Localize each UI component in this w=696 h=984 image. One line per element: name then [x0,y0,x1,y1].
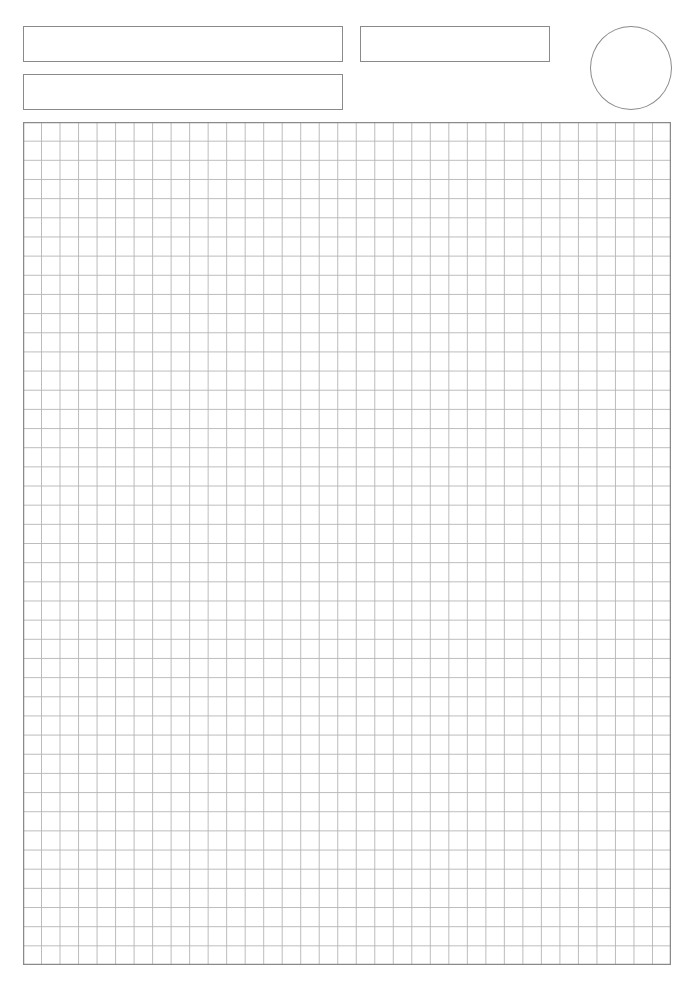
graph-grid[interactable] [23,122,671,965]
header-field-second-left[interactable] [23,74,343,110]
header-field-top-left[interactable] [23,26,343,62]
header-circle-field[interactable] [590,26,672,110]
grid-lines [23,122,671,965]
header-field-top-right[interactable] [360,26,550,62]
